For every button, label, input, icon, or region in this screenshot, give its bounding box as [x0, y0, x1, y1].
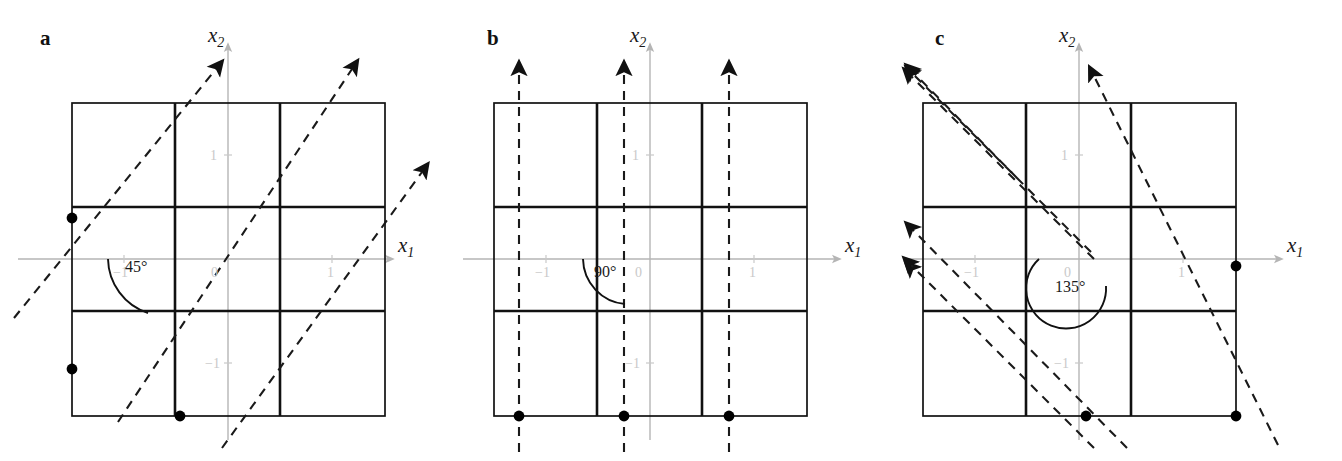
xtick-pos1-a: 1: [327, 265, 334, 280]
ytick-neg1-b: −1: [625, 356, 640, 371]
x1-axis-label: x1: [844, 233, 861, 260]
direction-lines-b: [519, 72, 729, 452]
boundary-markers-c: [1081, 261, 1242, 422]
marker-dot: [175, 411, 186, 422]
figure-root: a: [0, 0, 1342, 461]
angle-label-b: 90°: [594, 263, 616, 280]
panel-c: c: [895, 0, 1342, 461]
direction-line-c-third: [1065, 72, 1275, 448]
x1-axis-label: x1: [397, 233, 414, 260]
marker-dot: [1081, 411, 1092, 422]
ytick-pos1-a: 1: [210, 148, 217, 163]
panel-a-plot: x1 x2 −1 0 1 1 −1 45°: [0, 0, 447, 461]
direction-lines-c-render: [913, 270, 1123, 448]
marker-dot: [514, 411, 525, 422]
xtick-neg1-b: −1: [535, 265, 550, 280]
marker-dot: [67, 213, 78, 224]
panel-b-plot: x1 x2 −1 0 1 1 −1 90°: [447, 0, 894, 461]
x2-axis-label: x2: [629, 23, 646, 50]
direction-line-c-diag3: [1079, 72, 1271, 448]
ytick-neg1-c: −1: [1054, 356, 1069, 371]
marker-dot: [1231, 411, 1242, 422]
xtick-neg1-c: −1: [964, 265, 979, 280]
axis-lines-c: [903, 45, 1281, 440]
panel-b: b: [447, 0, 894, 461]
xtick-pos1-c: 1: [1178, 265, 1185, 280]
ytick-neg1-a: −1: [205, 356, 220, 371]
panel-c-plot: x1 x2 −1 0 1 1 −1 135°: [895, 0, 1342, 461]
direction-lines-c-final: [913, 72, 1247, 408]
marker-dot: [1231, 261, 1242, 272]
x1-axis-label: x1: [1286, 233, 1303, 260]
direction-line-c-upper: [1085, 72, 1273, 450]
angle-label-c: 135°: [1055, 278, 1085, 295]
marker-dot: [724, 411, 735, 422]
xtick-zero-b: 0: [635, 265, 642, 280]
xtick-pos1-b: 1: [749, 265, 756, 280]
marker-dot: [67, 364, 78, 375]
direction-lines-c: [903, 68, 1242, 448]
xtick-zero-a: 0: [211, 265, 218, 280]
boundary-markers-a: [67, 213, 186, 422]
angle-label-a: 45°: [125, 258, 147, 275]
direction-lines-c-visible: [913, 72, 1235, 448]
marker-dot: [619, 411, 630, 422]
x2-axis-label: x2: [207, 23, 224, 50]
panel-a: a: [0, 0, 447, 461]
x2-axis-label: x2: [1058, 23, 1075, 50]
ytick-pos1-b: 1: [632, 148, 639, 163]
ytick-pos1-c: 1: [1061, 148, 1068, 163]
